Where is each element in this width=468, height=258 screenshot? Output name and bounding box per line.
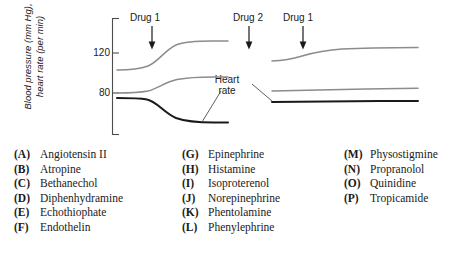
heart-rate-leader-left <box>202 91 221 122</box>
pharmacology-figure: Blood pressure (mm Hg), heart rate (per … <box>0 0 468 258</box>
legend-key: (E) <box>14 206 40 218</box>
legend-key: (J) <box>182 192 208 204</box>
answer-choices-legend: (A) Angiotensin II (B) Atropine (C) Beth… <box>0 148 468 258</box>
legend-column-2: (G) Epinephrine (H) Histamine (I) Isopro… <box>182 148 280 236</box>
legend-label: Atropine <box>40 163 81 175</box>
legend-label: Propranolol <box>370 163 424 175</box>
legend-key: (H) <box>182 163 208 175</box>
list-item[interactable]: (J) Norepinephrine <box>182 192 280 207</box>
legend-label: Norepinephrine <box>208 192 280 204</box>
legend-column-3: (M) Physostigmine (N) Propranolol (O) Qu… <box>344 148 438 206</box>
legend-label: Isoproterenol <box>208 177 269 189</box>
list-item[interactable]: (H) Histamine <box>182 163 280 178</box>
legend-key: (C) <box>14 177 40 189</box>
legend-label: Phenylephrine <box>208 221 274 233</box>
systolic-trace-left <box>117 41 228 70</box>
legend-key: (B) <box>14 163 40 175</box>
list-item[interactable]: (O) Quinidine <box>344 177 438 192</box>
drug1-right-arrow-icon <box>300 26 307 50</box>
legend-label: Diphenhydramine <box>40 192 123 204</box>
legend-key: (L) <box>182 221 208 233</box>
diastolic-trace-left <box>117 77 228 93</box>
drug2-arrow-icon <box>246 26 253 50</box>
list-item[interactable]: (L) Phenylephrine <box>182 221 280 236</box>
legend-label: Phentolamine <box>208 206 271 218</box>
legend-label: Tropicamide <box>370 192 428 204</box>
drug1-left-arrow-icon <box>149 26 156 50</box>
legend-key: (I) <box>182 177 208 189</box>
list-item[interactable]: (C) Bethanechol <box>14 177 123 192</box>
list-item[interactable]: (P) Tropicamide <box>344 192 438 207</box>
list-item[interactable]: (D) Diphenhydramine <box>14 192 123 207</box>
legend-label: Quinidine <box>370 177 416 189</box>
list-item[interactable]: (M) Physostigmine <box>344 148 438 163</box>
legend-column-1: (A) Angiotensin II (B) Atropine (C) Beth… <box>14 148 123 236</box>
list-item[interactable]: (B) Atropine <box>14 163 123 178</box>
list-item[interactable]: (F) Endothelin <box>14 221 123 236</box>
legend-label: Histamine <box>208 163 255 175</box>
legend-key: (M) <box>344 148 370 160</box>
heart-rate-leader-right <box>252 84 272 101</box>
legend-key: (F) <box>14 221 40 233</box>
legend-label: Physostigmine <box>370 148 438 160</box>
legend-label: Bethanechol <box>40 177 97 189</box>
heart-rate-trace-right <box>272 101 418 102</box>
chart-area: Blood pressure (mm Hg), heart rate (per … <box>0 0 468 145</box>
legend-key: (K) <box>182 206 208 218</box>
list-item[interactable]: (G) Epinephrine <box>182 148 280 163</box>
legend-key: (O) <box>344 177 370 189</box>
list-item[interactable]: (A) Angiotensin II <box>14 148 123 163</box>
y-axis <box>113 18 120 135</box>
legend-key: (D) <box>14 192 40 204</box>
legend-key: (N) <box>344 163 370 175</box>
heart-rate-trace-left <box>117 98 228 123</box>
legend-key: (P) <box>344 192 370 204</box>
legend-key: (G) <box>182 148 208 160</box>
diastolic-trace-right <box>272 88 418 91</box>
list-item[interactable]: (K) Phentolamine <box>182 206 280 221</box>
systolic-trace-right <box>272 48 418 62</box>
legend-label: Epinephrine <box>208 148 264 160</box>
list-item[interactable]: (N) Propranolol <box>344 163 438 178</box>
list-item[interactable]: (I) Isoproterenol <box>182 177 280 192</box>
list-item[interactable]: (E) Echothiophate <box>14 206 123 221</box>
legend-key: (A) <box>14 148 40 160</box>
legend-label: Endothelin <box>40 221 90 233</box>
legend-label: Echothiophate <box>40 206 106 218</box>
chart-plot-svg <box>0 0 468 145</box>
legend-label: Angiotensin II <box>40 148 107 160</box>
